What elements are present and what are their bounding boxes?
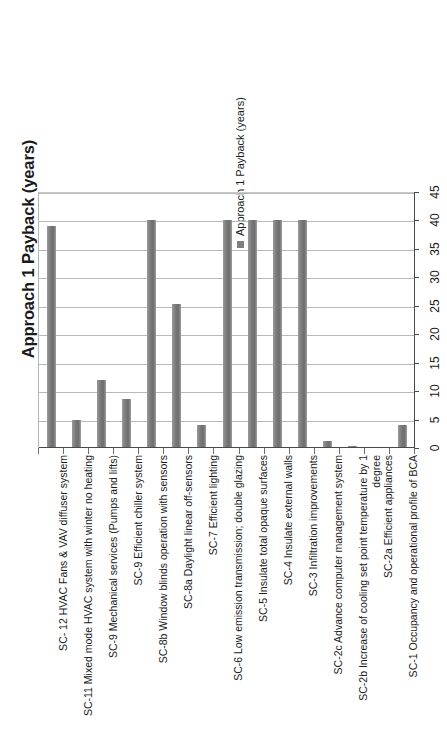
category-label: SC-6 Low emission transmission; double g…	[232, 455, 258, 727]
value-axis-tick	[414, 334, 419, 335]
value-axis-tick	[414, 220, 419, 221]
value-axis-tick-label: 20	[428, 322, 442, 346]
y-axis-title: Approach 1 Payback (years)	[16, 129, 40, 369]
category-label: SC-3 Infiltration improvements	[307, 455, 333, 727]
value-axis-tick	[414, 391, 419, 392]
category-label: SC-2c Advance computer management system	[332, 455, 358, 727]
category-label: SC-9 Efficient chiller system	[132, 455, 158, 727]
category-tick	[339, 448, 340, 454]
bar	[398, 425, 407, 448]
category-tick	[389, 448, 390, 454]
category-label: SC-2a Efficient appliances	[382, 455, 408, 727]
bar	[47, 226, 56, 448]
category-label: SC-2b Increase of cooling set point temp…	[357, 455, 383, 727]
bar	[172, 304, 181, 448]
category-tick	[38, 448, 39, 454]
value-axis-tick-label: 45	[428, 180, 442, 204]
bar	[147, 220, 156, 448]
category-tick	[188, 448, 189, 454]
category-label: SC-11 Mixed mode HVAC system with winter…	[82, 455, 108, 727]
category-tick	[264, 448, 265, 454]
value-axis-tick	[414, 277, 419, 278]
category-label: SC-8b Window blinds operation with senso…	[157, 455, 183, 727]
bar	[72, 420, 81, 448]
category-tick	[289, 448, 290, 454]
bar	[122, 399, 131, 448]
bar	[273, 220, 282, 448]
bar-series	[39, 193, 414, 448]
value-axis-tick-label: 10	[428, 379, 442, 403]
category-tick	[138, 448, 139, 454]
bar-chart-figure: Approach 1 Payback (years) Approach 1 Pa…	[0, 0, 447, 733]
plot-area	[38, 192, 414, 448]
category-labels: SC- 12 HVAC Fans & VAV diffuser systemSC…	[0, 455, 447, 733]
category-label: SC-5 Insulate total opaque surfaces	[257, 455, 283, 727]
category-label: SC-9 Mechanical services (Pumps and lift…	[107, 455, 133, 727]
value-axis-tick	[414, 306, 419, 307]
value-axis-line	[414, 192, 415, 449]
category-tick	[163, 448, 164, 454]
category-tick	[113, 448, 114, 454]
category-ticks	[38, 448, 414, 455]
category-tick	[314, 448, 315, 454]
category-tick	[239, 448, 240, 454]
value-axis-tick-label: 35	[428, 237, 442, 261]
value-axis-tick-label: 25	[428, 294, 442, 318]
value-axis-tick-label: 5	[428, 408, 442, 432]
value-axis-tick	[414, 420, 419, 421]
category-tick	[414, 448, 415, 454]
bar	[223, 220, 232, 448]
value-axis-tick-label: 40	[428, 208, 442, 232]
bar	[298, 220, 307, 448]
value-axis-tick-label: 15	[428, 351, 442, 375]
value-axis: 051015202530354045	[414, 192, 447, 449]
category-tick	[63, 448, 64, 454]
category-tick	[88, 448, 89, 454]
category-label: SC-1 Occupancy and operational profile o…	[407, 455, 433, 727]
value-axis-tick	[414, 363, 419, 364]
value-axis-tick	[414, 249, 419, 250]
category-label: SC- 12 HVAC Fans & VAV diffuser system	[57, 455, 83, 727]
bar	[248, 220, 257, 448]
bar	[97, 380, 106, 448]
category-label: SC-7 Efficient lighting	[207, 455, 233, 727]
category-label: SC-4 Insulate external walls	[282, 455, 308, 727]
value-axis-tick	[414, 192, 419, 193]
value-axis-tick-label: 30	[428, 265, 442, 289]
category-tick	[213, 448, 214, 454]
category-tick	[364, 448, 365, 454]
bar	[197, 425, 206, 448]
category-label: SC-8a Daylight linear off-sensors	[182, 455, 208, 727]
